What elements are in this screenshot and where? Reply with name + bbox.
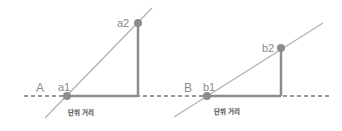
label-b2: b2 [262,42,274,54]
point-a2 [134,19,142,27]
slope-comparison-diagram: A a1 a2 단위 거리 B b1 b2 단위 거리 [0,0,342,131]
label-b1: b1 [203,81,215,93]
point-b1 [203,92,211,100]
panel-b: B b1 b2 단위 거리 [174,23,323,117]
panel-a: A a1 a2 단위 거리 [36,8,152,118]
unit-distance-label-a: 단위 거리 [68,108,94,117]
diagram-svg: A a1 a2 단위 거리 B b1 b2 단위 거리 [0,0,342,131]
line-b [174,23,323,117]
label-a1: a1 [58,81,70,93]
unit-distance-label-b: 단위 거리 [214,107,240,116]
label-b: B [184,81,192,95]
label-a2: a2 [117,17,129,29]
point-b2 [277,44,285,52]
label-a: A [36,81,44,95]
point-a1 [63,92,71,100]
